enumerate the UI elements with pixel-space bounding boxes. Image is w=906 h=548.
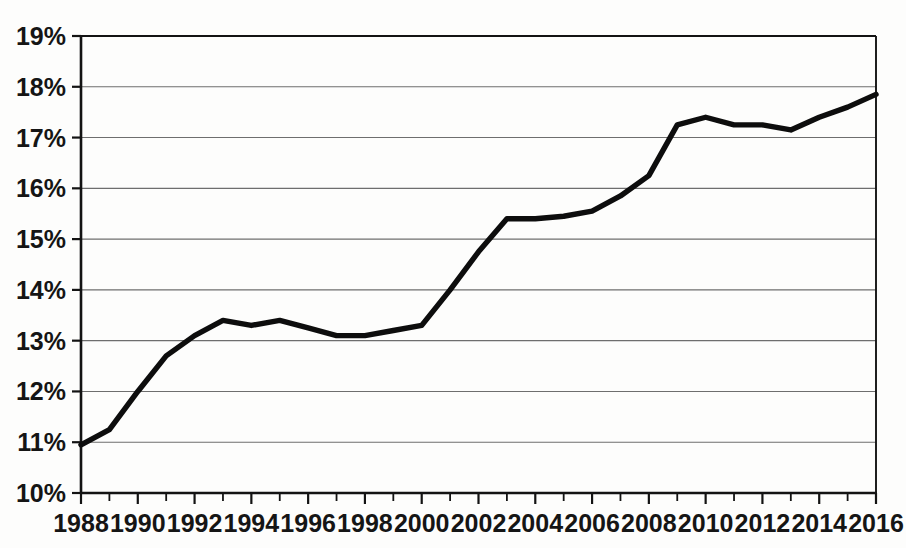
y-axis-labels: 19%18%17%16%15%14%13%12%11%10% xyxy=(16,22,66,507)
x-axis-label-2002: 2002 xyxy=(451,509,507,537)
x-axis-label-1992: 1992 xyxy=(167,509,223,537)
x-axis-label-2016: 2016 xyxy=(848,509,904,537)
y-axis-ticks xyxy=(72,36,81,493)
y-axis-label-19: 19% xyxy=(16,22,66,50)
x-axis-label-2012: 2012 xyxy=(735,509,791,537)
y-axis-label-15: 15% xyxy=(16,225,66,253)
y-axis-label-12: 12% xyxy=(16,377,66,405)
plot-frame xyxy=(80,35,877,494)
x-axis-labels: 1988199019921994199619982000200220042006… xyxy=(53,509,904,537)
x-axis-label-2014: 2014 xyxy=(791,509,847,537)
series-line-share xyxy=(81,94,876,444)
x-axis-label-2008: 2008 xyxy=(621,509,677,537)
line-chart: 19%18%17%16%15%14%13%12%11%10% 198819901… xyxy=(0,0,906,548)
x-axis-label-2010: 2010 xyxy=(678,509,734,537)
y-axis-label-13: 13% xyxy=(16,327,66,355)
y-axis-label-10: 10% xyxy=(16,479,66,507)
y-axis-label-16: 16% xyxy=(16,174,66,202)
gridlines xyxy=(81,87,876,442)
x-axis-label-2000: 2000 xyxy=(394,509,450,537)
x-axis-ticks xyxy=(81,493,876,504)
y-axis-label-18: 18% xyxy=(16,73,66,101)
x-axis-label-2004: 2004 xyxy=(507,509,563,537)
x-axis-label-1998: 1998 xyxy=(337,509,393,537)
y-axis-label-17: 17% xyxy=(16,124,66,152)
x-axis-label-1990: 1990 xyxy=(110,509,166,537)
y-axis-label-11: 11% xyxy=(17,428,66,456)
data-series xyxy=(81,94,876,444)
x-axis-label-1994: 1994 xyxy=(224,509,280,537)
y-axis-label-14: 14% xyxy=(16,276,66,304)
chart-canvas: 19%18%17%16%15%14%13%12%11%10% 198819901… xyxy=(0,0,906,548)
x-axis-label-1988: 1988 xyxy=(53,509,109,537)
x-axis-label-1996: 1996 xyxy=(280,509,336,537)
x-axis-label-2006: 2006 xyxy=(564,509,620,537)
